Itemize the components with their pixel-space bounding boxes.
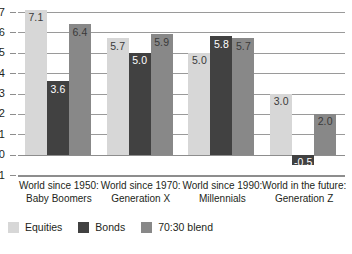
y-axis-tick-label: 0 xyxy=(0,149,5,160)
category-label-line: World since 1970: xyxy=(94,180,188,193)
y-axis-tick-mark xyxy=(10,155,16,156)
category-label-line: World in the future: xyxy=(257,180,351,193)
bar-equities-group-3 xyxy=(188,53,210,155)
y-axis-tick-mark xyxy=(10,94,16,95)
y-axis-tick-label: 7 xyxy=(0,7,5,18)
y-axis-tick-label: 3 xyxy=(0,88,5,99)
bar-chart: 76543210-1 7.15.75.03.03.65.05.8-0.56.45… xyxy=(0,0,352,254)
legend-swatch-icon xyxy=(78,222,89,233)
category-label-line: World since 1990: xyxy=(176,180,270,193)
bar-value-label: 2.0 xyxy=(314,116,336,127)
category-label-4: World in the future:Generation Z xyxy=(257,180,351,205)
legend-item-equities[interactable]: Equities xyxy=(8,222,62,233)
bar-blend-group-3 xyxy=(232,38,254,154)
y-axis-tick-mark xyxy=(10,114,16,115)
bars-layer: 7.15.75.03.03.65.05.8-0.56.45.95.72.0 xyxy=(18,12,345,175)
bar-bonds-group-3 xyxy=(210,36,232,154)
legend-item-bonds[interactable]: Bonds xyxy=(78,222,125,233)
bar-value-label: 5.0 xyxy=(129,55,151,66)
y-axis-tick-label: 6 xyxy=(0,27,5,38)
y-axis-tick-mark xyxy=(10,32,16,33)
gridline-neg1 xyxy=(18,175,345,177)
category-label-3: World since 1990:Millennials xyxy=(176,180,270,205)
category-label-2: World since 1970:Generation X xyxy=(94,180,188,205)
legend-item-70-30-blend[interactable]: 70:30 blend xyxy=(141,222,213,233)
bar-value-label: 5.8 xyxy=(210,39,232,50)
category-label-1: World since 1950:Baby Boomers xyxy=(12,180,106,205)
y-axis-tick-mark xyxy=(10,175,16,176)
category-label-line: Baby Boomers xyxy=(12,193,106,206)
legend-label: 70:30 blend xyxy=(158,222,213,233)
bar-value-label: 3.0 xyxy=(270,96,292,107)
y-axis-tick-label: 1 xyxy=(0,129,5,140)
category-label-line: Millennials xyxy=(176,193,270,206)
bar-value-label: 3.6 xyxy=(47,84,69,95)
category-label-line: Generation X xyxy=(94,193,188,206)
bar-blend-group-1 xyxy=(69,24,91,154)
y-axis-tick-mark xyxy=(10,134,16,135)
bar-value-label: 5.7 xyxy=(232,41,254,52)
legend-label: Equities xyxy=(25,222,62,233)
y-axis-tick-mark xyxy=(10,53,16,54)
legend-swatch-icon xyxy=(141,222,152,233)
bar-value-label: 5.9 xyxy=(151,37,173,48)
y-axis-tick-mark xyxy=(10,73,16,74)
y-axis-tick-label: 2 xyxy=(0,108,5,119)
chart-legend: EquitiesBonds70:30 blend xyxy=(8,222,229,233)
legend-swatch-icon xyxy=(8,222,19,233)
y-axis-tick-mark xyxy=(10,12,16,13)
bar-value-label: -0.5 xyxy=(292,157,314,168)
bar-equities-group-2 xyxy=(107,38,129,154)
category-axis: World since 1950:Baby BoomersWorld since… xyxy=(18,180,345,210)
y-axis-tick-label: -1 xyxy=(0,170,5,181)
category-label-line: World since 1950: xyxy=(12,180,106,193)
bar-value-label: 5.0 xyxy=(188,55,210,66)
legend-label: Bonds xyxy=(95,222,125,233)
category-label-line: Generation Z xyxy=(257,193,351,206)
bar-blend-group-2 xyxy=(151,34,173,154)
y-axis-tick-label: 5 xyxy=(0,47,5,58)
bar-value-label: 7.1 xyxy=(25,12,47,23)
bar-value-label: 6.4 xyxy=(69,27,91,38)
bar-bonds-group-2 xyxy=(129,53,151,155)
y-axis-tick-label: 4 xyxy=(0,68,5,79)
bar-value-label: 5.7 xyxy=(107,41,129,52)
bar-equities-group-1 xyxy=(25,10,47,155)
